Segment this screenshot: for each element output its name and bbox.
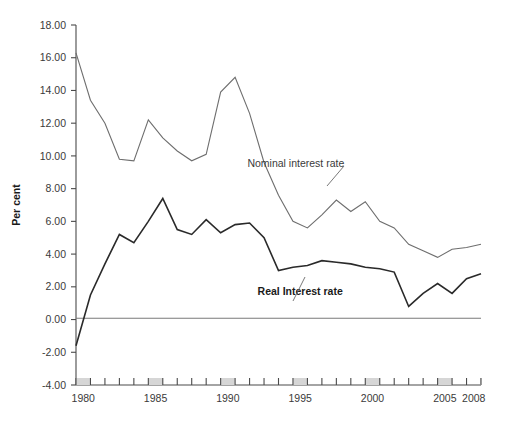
- y-tick-label: -4.00: [42, 379, 66, 391]
- year-highlight-band: [76, 378, 90, 385]
- annotation-label-nominal: Nominal interest rate: [247, 157, 344, 169]
- y-tick-label: 12.00: [40, 117, 66, 129]
- y-tick-label: 0.00: [46, 313, 67, 325]
- y-tick-label: 10.00: [40, 150, 66, 162]
- x-tick-label: 2008: [462, 392, 486, 404]
- y-tick-label: 18.00: [40, 19, 66, 31]
- y-tick-label: 16.00: [40, 51, 66, 63]
- x-tick-label: 1980: [72, 392, 96, 404]
- year-highlight-band: [438, 378, 452, 385]
- y-tick-label: 2.00: [46, 280, 67, 292]
- year-highlight-band: [221, 378, 235, 385]
- interest-rate-line-chart: Per cent -4.00-2.000.002.004.006.008.001…: [0, 0, 509, 426]
- year-highlight-band: [365, 378, 379, 385]
- y-tick-label: 8.00: [46, 182, 67, 194]
- year-highlight-band: [293, 378, 307, 385]
- x-tick-label: 1995: [289, 392, 313, 404]
- y-axis-title: Per cent: [10, 184, 22, 226]
- y-tick-label: -2.00: [42, 346, 66, 358]
- year-highlight-band: [148, 378, 162, 385]
- y-tick-label: 6.00: [46, 215, 67, 227]
- chart-figure: Per cent -4.00-2.000.002.004.006.008.001…: [0, 0, 509, 426]
- y-tick-label: 4.00: [46, 248, 67, 260]
- x-tick-label: 2000: [361, 392, 385, 404]
- x-tick-label: 1985: [144, 392, 168, 404]
- x-tick-label: 1990: [216, 392, 240, 404]
- y-tick-label: 14.00: [40, 84, 66, 96]
- x-tick-label: 2005: [433, 392, 457, 404]
